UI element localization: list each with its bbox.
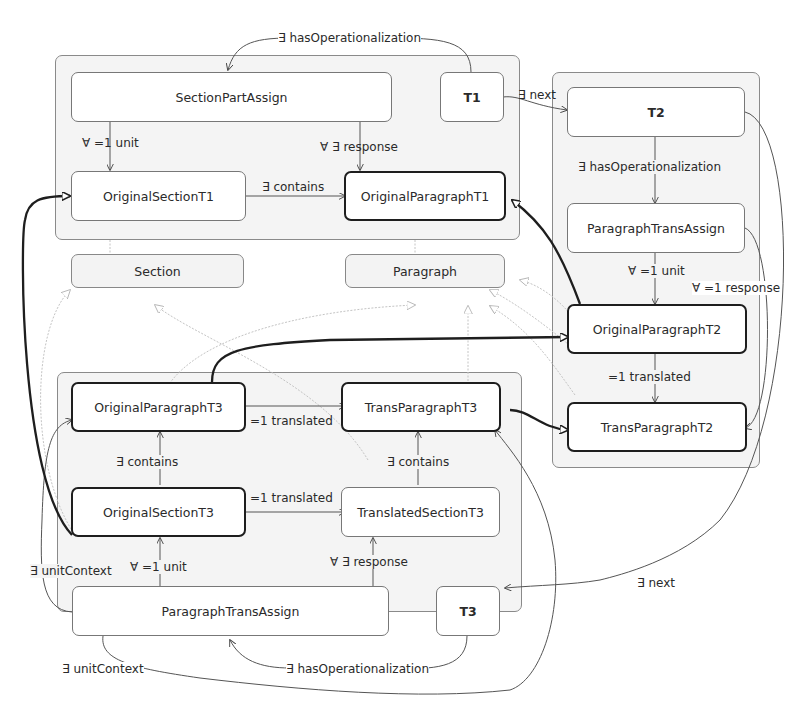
label-pta3-unit-context-left: ∃ unitContext [30, 564, 112, 578]
node-original-paragraph-t1[interactable]: OriginalParagraphT1 [344, 171, 506, 221]
node-t2[interactable]: T2 [567, 87, 745, 137]
node-original-paragraph-t2[interactable]: OriginalParagraphT2 [567, 304, 747, 354]
label-t2-next: ∃ next [637, 576, 675, 590]
label-pta2-unit: ∀ =1 unit [628, 264, 685, 278]
node-translated-section-t3[interactable]: TranslatedSectionT3 [341, 487, 500, 537]
label-ost1-contains: ∃ contains [262, 180, 324, 194]
label-spa-response: ∀ ∃ response [320, 140, 398, 154]
node-section[interactable]: Section [71, 254, 244, 288]
label-opt3-translated: =1 translated [250, 414, 333, 428]
label-pta3-unit: ∀ =1 unit [130, 560, 187, 574]
node-original-paragraph-t3[interactable]: OriginalParagraphT3 [71, 382, 246, 432]
node-paragraph-trans-assign-t2[interactable]: ParagraphTransAssign [567, 203, 745, 253]
node-trans-paragraph-t3[interactable]: TransParagraphT3 [341, 382, 501, 432]
label-opt2-translated: =1 translated [608, 370, 691, 384]
node-paragraph[interactable]: Paragraph [345, 254, 505, 288]
node-t3[interactable]: T3 [436, 586, 500, 636]
label-pta3-response: ∀ ∃ response [330, 555, 408, 569]
node-original-section-t3[interactable]: OriginalSectionT3 [71, 487, 246, 537]
label-spa-unit: ∀ =1 unit [82, 136, 139, 150]
node-section-part-assign[interactable]: SectionPartAssign [71, 72, 392, 122]
node-paragraph-trans-assign-t3[interactable]: ParagraphTransAssign [72, 586, 389, 636]
label-pta2-response: ∀ =1 response [692, 281, 780, 295]
ontology-diagram: SectionPartAssign T1 OriginalSectionT1 O… [0, 0, 806, 713]
label-t3-has-operationalization: ∃ hasOperationalization [286, 662, 429, 676]
label-ost3-contains: ∃ contains [116, 455, 178, 469]
node-trans-paragraph-t2[interactable]: TransParagraphT2 [567, 402, 747, 452]
node-t1[interactable]: T1 [440, 72, 504, 122]
label-t2-has-operationalization: ∃ hasOperationalization [578, 160, 721, 174]
label-pta3-unit-context-bottom: ∃ unitContext [62, 662, 144, 676]
label-tst3-contains: ∃ contains [387, 455, 449, 469]
label-t1-next: ∃ next [518, 88, 556, 102]
node-original-section-t1[interactable]: OriginalSectionT1 [71, 171, 246, 221]
label-t1-has-operationalization: ∃ hasOperationalization [278, 31, 421, 45]
label-ost3-translated: =1 translated [250, 491, 333, 505]
